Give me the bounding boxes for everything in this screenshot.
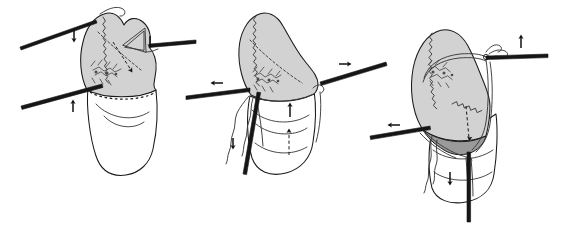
panel-3-rod-bottom[interactable] xyxy=(467,152,471,222)
surgical-figure: .ol { fill:none; stroke:#1a1a1a; stroke-… xyxy=(0,0,568,227)
figure-canvas: .ol { fill:none; stroke:#1a1a1a; stroke-… xyxy=(0,0,568,227)
panel-1-flap xyxy=(81,13,157,97)
